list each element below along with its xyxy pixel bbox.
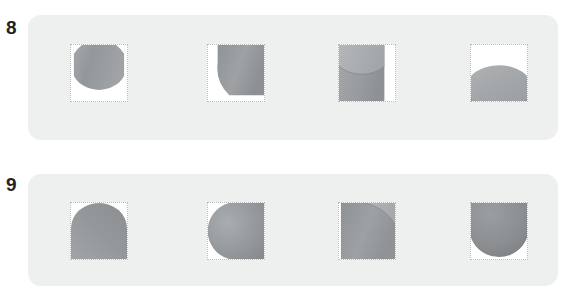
shape-circle-bottom-arc [471,203,527,259]
shape-cell-9-1[interactable] [70,202,128,260]
shape-ellipse-cut-corners [71,45,127,101]
row-label-8: 8 [6,18,17,37]
row-label-9: 9 [6,175,17,194]
shape-cell-8-3[interactable] [338,44,396,102]
shape-cell-9-3[interactable] [338,202,396,260]
shape-cell-8-2[interactable] [207,44,265,102]
shape-cell-9-2[interactable] [207,202,265,260]
shape-concave-arc-top [339,203,395,259]
shape-cylinder-top-right-strip [339,45,395,101]
shape-cell-8-1[interactable] [70,44,128,102]
shape-row-8: 8 [0,0,574,155]
shape-cell-8-4[interactable] [470,44,528,102]
shape-dome-bottom [71,203,127,259]
shape-row-9: 9 [0,160,574,300]
shape-wide-ellipse-bottom [471,45,527,101]
shape-cell-9-4[interactable] [470,202,528,260]
shape-circle-clipped-right [208,203,264,259]
shape-quarter-notch-bottom-left [208,45,264,101]
